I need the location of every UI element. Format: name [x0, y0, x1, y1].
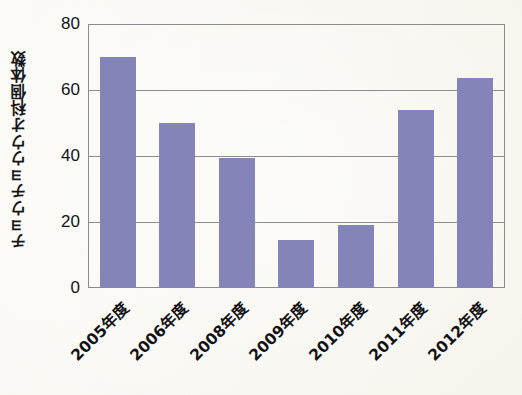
bar-2012[interactable]: [457, 78, 493, 288]
bar-2006[interactable]: [159, 123, 195, 288]
y-tick-label: 40: [38, 146, 80, 166]
x-tick-slot: 2012年度: [445, 288, 505, 395]
y-tick-label: 0: [38, 278, 80, 298]
bar-slot: [207, 24, 267, 288]
bar-slot: [148, 24, 208, 288]
y-axis-title: チョウチョウウオ科個体数: [0, 0, 40, 300]
bar-2010[interactable]: [338, 225, 374, 288]
y-axis-title-text: チョウチョウウオ科個体数: [9, 50, 31, 249]
bar-chart: チョウチョウウオ科個体数 80 60 40 20 0 2005年度 2006年度…: [0, 0, 522, 395]
x-axis-tick-labels: 2005年度 2006年度 2008年度 2009年度 2010年度 2011年…: [88, 288, 505, 395]
bar-2009[interactable]: [278, 240, 314, 288]
bar-slot: [88, 24, 148, 288]
bar-2005[interactable]: [100, 57, 136, 288]
bar-slot: [326, 24, 386, 288]
bar-2008[interactable]: [219, 158, 255, 288]
y-tick-label: 80: [38, 14, 80, 34]
bars-layer: [88, 24, 505, 288]
x-tick-label: 2005年度: [65, 296, 134, 365]
bar-slot: [267, 24, 327, 288]
y-tick-label: 60: [38, 80, 80, 100]
y-tick-label: 20: [38, 212, 80, 232]
bar-slot: [386, 24, 446, 288]
bar-2011[interactable]: [398, 110, 434, 288]
bar-slot: [445, 24, 505, 288]
